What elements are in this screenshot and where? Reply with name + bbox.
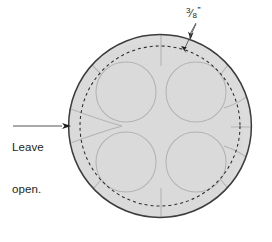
leave-open-label-line-1: Leave [12,140,58,154]
leave-open-label-line-2: open. [12,182,58,196]
diagram-canvas: Leave open. 3 ⁄ 8 ” [0,0,272,242]
seam-line-upper-right [221,36,249,74]
fraction-denominator: 8 [193,12,198,20]
leave-open-label: Leave open. [12,112,58,224]
inch-unit-mark: ” [198,5,201,16]
seam-allowance-fraction: 3 ⁄ 8 [186,8,197,19]
seam-line-lower-left [72,180,101,216]
seam-allowance-label: 3 ⁄ 8 ” [186,8,200,19]
seam-allowance-leader-line [190,23,196,34]
seam-line-lower-right [221,180,249,215]
